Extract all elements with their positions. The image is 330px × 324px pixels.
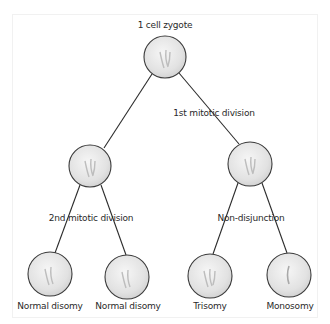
edge-zygote-midleft bbox=[104, 74, 152, 148]
cell-mid-left bbox=[69, 145, 111, 187]
cell-normal-disomy-2 bbox=[105, 255, 149, 299]
cell-monosomy bbox=[267, 253, 311, 297]
cell-trisomy bbox=[188, 254, 232, 298]
cell-mid-right bbox=[228, 142, 272, 186]
label-non-disjunction: Non-disjunction bbox=[217, 213, 284, 224]
label-monosomy: Monosomy bbox=[266, 301, 313, 312]
label-first-mitotic-division: 1st mitotic division bbox=[173, 108, 254, 119]
label-zygote: 1 cell zygote bbox=[138, 20, 193, 31]
label-trisomy: Trisomy bbox=[193, 301, 226, 312]
division-tree bbox=[0, 0, 330, 324]
cell-normal-disomy-1 bbox=[28, 252, 72, 296]
cell-zygote bbox=[144, 36, 186, 78]
label-normal-disomy-2: Normal disomy bbox=[95, 301, 160, 312]
label-second-mitotic-division: 2nd mitotic division bbox=[49, 213, 134, 224]
label-normal-disomy-1: Normal disomy bbox=[17, 301, 82, 312]
